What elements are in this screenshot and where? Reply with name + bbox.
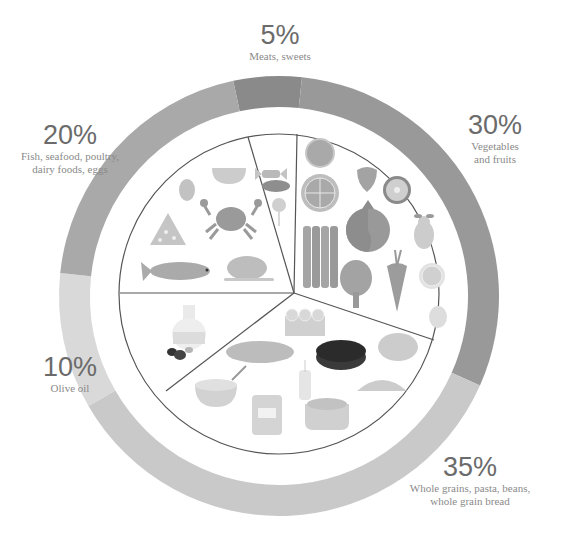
label-meats-percent: 5%: [200, 20, 360, 50]
label-fish-percent: 20%: [0, 120, 140, 150]
lemon-slice-icon: [301, 174, 339, 212]
label-vegetables-percent: 30%: [440, 110, 550, 140]
label-grains-percent: 35%: [380, 452, 560, 482]
label-vegetables: 30% Vegetables and fruits: [440, 110, 550, 166]
orange-slice-icon: [306, 139, 334, 167]
label-olive: 10% Olive oil: [10, 352, 130, 395]
beans-bowl-icon: [305, 398, 349, 430]
label-fish-desc-2: dairy foods, eggs: [0, 163, 140, 176]
kiwi-icon: [383, 176, 411, 204]
label-vegetables-desc-1: Vegetables: [440, 140, 550, 153]
label-fish: 20% Fish, seafood, poultry, dairy foods,…: [0, 120, 140, 176]
jar-icon: [252, 395, 282, 435]
label-olive-percent: 10%: [10, 352, 130, 382]
label-olive-desc: Olive oil: [10, 382, 130, 395]
cauliflower-icon: [429, 306, 447, 328]
rolls-basket-icon: [285, 309, 325, 336]
baguette-icon: [226, 341, 294, 363]
food-plate-diagram: 5% Meats, sweets 30% Vegetables and frui…: [0, 0, 561, 539]
label-grains-desc-1: Whole grains, pasta, beans,: [380, 482, 560, 495]
sausage-icon: [262, 180, 290, 192]
label-meats: 5% Meats, sweets: [200, 20, 360, 63]
label-grains-desc-2: whole grain bread: [380, 495, 560, 508]
label-grains: 35% Whole grains, pasta, beans, whole gr…: [380, 452, 560, 508]
round-bread-icon: [378, 333, 418, 361]
label-meats-desc: Meats, sweets: [200, 50, 360, 63]
citrus-slice-icon: [419, 263, 445, 289]
label-fish-desc-1: Fish, seafood, poultry,: [0, 150, 140, 163]
label-vegetables-desc-2: and fruits: [440, 153, 550, 166]
egg-icon: [179, 179, 195, 201]
dark-bread-icon: [316, 340, 366, 370]
ring-segment-meats: [233, 76, 302, 111]
